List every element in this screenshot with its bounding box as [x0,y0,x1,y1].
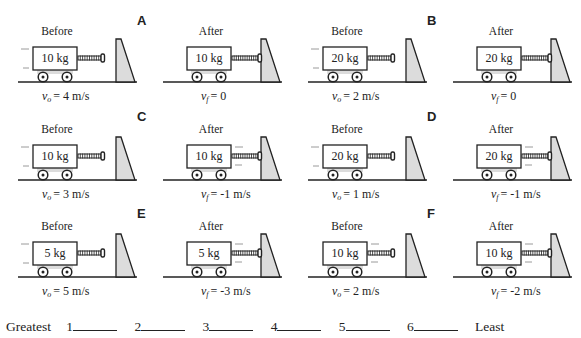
velocity-value: = 5 m/s [53,284,89,298]
before-label: Before [307,220,387,232]
cart-spring-wall-illustration [145,195,290,295]
rank-slot-4-blank[interactable] [277,318,321,331]
case-letter-b: B [427,13,436,28]
cart-spring-wall-illustration [290,195,435,295]
cart-spring-wall-illustration [0,98,145,198]
case-a-before-panel: Before10 kgvo= 4 m/s [0,0,145,100]
rank-slot-2-number: 2 [134,319,141,335]
case-letter-a: A [137,13,146,28]
after-label: After [461,220,541,232]
velocity-subscript: o [337,290,341,299]
after-label: After [171,25,251,37]
before-label: Before [17,220,97,232]
velocity-value: = -3 m/s [211,284,251,298]
mass-label: 10 kg [33,149,77,164]
rank-slot-5-blank[interactable] [346,318,390,331]
rank-slot-6-number: 6 [407,319,414,335]
mass-label: 10 kg [33,51,77,66]
wall-icon [116,39,135,82]
case-c-after-panel: After10 kgvf= -1 m/s [145,98,290,198]
mass-label: 10 kg [187,149,231,164]
velocity-subscript: o [47,290,51,299]
case-d-before-panel: Before20 kgvo= 1 m/s [290,98,435,198]
rank-slot-2-blank[interactable] [141,318,185,331]
wall-icon [551,39,570,82]
mass-label: 20 kg [323,149,367,164]
cart-spring-wall-illustration [435,98,580,198]
before-label: Before [17,25,97,37]
case-e-before-panel: Before5 kgvo= 5 m/s [0,195,145,295]
mass-label: 5 kg [187,246,231,261]
cart-spring-wall-illustration [145,0,290,100]
wall-icon [116,137,135,180]
case-f-after-panel: After10 kgvf= -2 m/s [435,195,580,295]
case-letter-e: E [137,206,146,221]
rank-slot-1-number: 1 [66,319,73,335]
rank-slot-6-blank[interactable] [414,318,458,331]
wall-icon [406,39,425,82]
velocity-subscript: f [496,290,498,299]
case-b-after-panel: After20 kgvf= 0 [435,0,580,100]
mass-label: 20 kg [477,51,521,66]
cart-spring-wall-illustration [435,195,580,295]
wall-icon [406,234,425,277]
rank-slot-3-number: 3 [203,319,210,335]
mass-label: 20 kg [477,149,521,164]
final-velocity-label: vf= -3 m/s [201,284,251,299]
mass-label: 10 kg [477,246,521,261]
before-label: Before [307,25,387,37]
case-d-after-panel: After20 kgvf= -1 m/s [435,98,580,198]
wall-icon [261,39,280,82]
rank-slot-3-blank[interactable] [209,318,253,331]
velocity-subscript: f [206,290,208,299]
rank-slot-5-number: 5 [339,319,346,335]
wall-icon [551,234,570,277]
case-a-after-panel: After10 kgvf= 0 [145,0,290,100]
case-letter-d: D [427,109,436,124]
initial-velocity-label: vo= 2 m/s [332,284,379,299]
before-label: Before [307,123,387,135]
wall-icon [406,137,425,180]
case-b-before-panel: Before20 kgvo= 2 m/s [290,0,435,100]
ranking-end-label: Least [475,319,504,335]
mass-label: 10 kg [187,51,231,66]
after-label: After [171,220,251,232]
ranking-row: Greatest 1 2 3 4 5 6 Least [6,318,504,335]
final-velocity-label: vf= -2 m/s [491,284,541,299]
mass-label: 20 kg [323,51,367,66]
wall-icon [261,137,280,180]
wall-icon [261,234,280,277]
rank-slot-4-number: 4 [271,319,278,335]
ranking-start-label: Greatest [6,319,51,335]
cart-spring-wall-illustration [435,0,580,100]
case-e-after-panel: After5 kgvf= -3 m/s [145,195,290,295]
rank-slot-1-blank[interactable] [73,318,117,331]
case-c-before-panel: Before10 kgvo= 3 m/s [0,98,145,198]
after-label: After [171,123,251,135]
initial-velocity-label: vo= 5 m/s [42,284,89,299]
case-letter-c: C [137,109,146,124]
collision-diagram-grid: Before10 kgvo= 4 m/sAfter10 kgvf= 0ABefo… [0,0,581,305]
case-letter-f: F [427,206,435,221]
cart-spring-wall-illustration [0,0,145,100]
velocity-value: = -2 m/s [501,284,541,298]
cart-spring-wall-illustration [290,98,435,198]
wall-icon [551,137,570,180]
case-f-before-panel: Before10 kgvo= 2 m/s [290,195,435,295]
after-label: After [461,25,541,37]
after-label: After [461,123,541,135]
before-label: Before [17,123,97,135]
cart-spring-wall-illustration [145,98,290,198]
wall-icon [116,234,135,277]
velocity-value: = 2 m/s [343,284,379,298]
cart-spring-wall-illustration [0,195,145,295]
mass-label: 10 kg [323,246,367,261]
mass-label: 5 kg [33,246,77,261]
cart-spring-wall-illustration [290,0,435,100]
